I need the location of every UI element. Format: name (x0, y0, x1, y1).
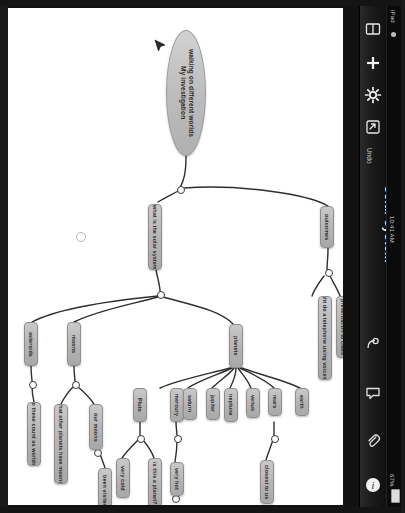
present-icon[interactable] (364, 336, 382, 354)
gear-icon[interactable] (364, 86, 382, 104)
node-mercury[interactable]: mercury (170, 388, 184, 422)
central-node-line1: walking on different worlds (187, 49, 195, 137)
hub-mercury-2[interactable] (172, 495, 180, 503)
node-jupiter[interactable]: jupiter (206, 388, 220, 420)
node-venus[interactable]: venus (246, 388, 260, 418)
node-presentation-to-class[interactable]: presentation to class (336, 296, 343, 358)
hub-asteroids[interactable] (29, 381, 37, 389)
node-mars[interactable]: mars (268, 388, 282, 416)
bezel-left (0, 0, 8, 513)
node-do-these-count[interactable]: do these count as worlds? (27, 402, 41, 466)
battery-icon (391, 489, 400, 503)
export-icon[interactable] (364, 118, 382, 136)
app-navbar: Undo solar system i (359, 6, 387, 507)
wifi-icon (391, 32, 396, 37)
node-moons[interactable]: moons (67, 322, 81, 366)
hub-mercury[interactable] (174, 435, 182, 443)
bezel-top (0, 0, 405, 6)
hub-mars[interactable] (271, 435, 279, 443)
central-node[interactable]: walking on different worlds My investiga… (166, 30, 206, 156)
node-outcomes[interactable]: outcomes (320, 206, 334, 248)
central-node-line2: My investigation (179, 49, 187, 137)
cursor-pointer (154, 39, 166, 53)
node-been-visited[interactable]: been visited (98, 468, 112, 505)
ipad-screen: walking on different worlds My investiga… (0, 0, 405, 513)
hub-root[interactable] (177, 186, 185, 194)
info-icon[interactable]: i (364, 476, 382, 494)
bezel-right (401, 0, 405, 513)
bezel-bottom (0, 507, 405, 513)
status-device-label: iPad (390, 10, 396, 23)
node-closest-to-us[interactable]: closest to us (260, 460, 274, 504)
node-planets[interactable]: planets (229, 324, 243, 368)
mindmap-canvas[interactable]: walking on different worlds My investiga… (8, 8, 343, 505)
node-neptune[interactable]: neptune (224, 388, 238, 422)
add-popplet-icon[interactable] (364, 54, 382, 72)
svg-text:i: i (372, 480, 375, 491)
collapse-handle-stray[interactable] (76, 232, 86, 242)
hub-pluto[interactable] (137, 435, 145, 443)
node-very-cold[interactable]: very cold (116, 458, 130, 498)
node-earth[interactable]: earth (295, 388, 309, 416)
status-time: 10:41 AM (389, 216, 395, 243)
node-is-this-a-planet[interactable]: is this a planet? (148, 458, 162, 505)
node-very-hot[interactable]: very hot (170, 462, 184, 496)
node-saturn[interactable]: saturn (183, 388, 197, 420)
node-might-do-telephone[interactable]: might do a telephone using voicemail (318, 296, 332, 380)
status-bar: iPad 10:41 AM 67% (386, 6, 401, 507)
node-our-moons[interactable]: our moons (89, 404, 103, 450)
hub-our-moons[interactable] (94, 449, 102, 457)
node-what-is-solar-system[interactable]: what is the solar system (148, 204, 162, 270)
hub-moons[interactable] (72, 381, 80, 389)
paperclip-icon[interactable] (364, 432, 382, 450)
node-what-other-planets-have-moons[interactable]: what other planets have moons? (54, 404, 68, 484)
hub-solar-system[interactable] (157, 291, 165, 299)
node-asteroids[interactable]: asteroids (24, 322, 38, 366)
status-battery-percent: 67% (389, 474, 395, 487)
hub-outcomes[interactable] (325, 269, 333, 277)
comment-icon[interactable] (364, 384, 382, 402)
undo-label[interactable]: Undo (366, 148, 373, 164)
node-pluto[interactable]: Pluto (133, 388, 147, 422)
library-icon[interactable] (364, 20, 382, 38)
